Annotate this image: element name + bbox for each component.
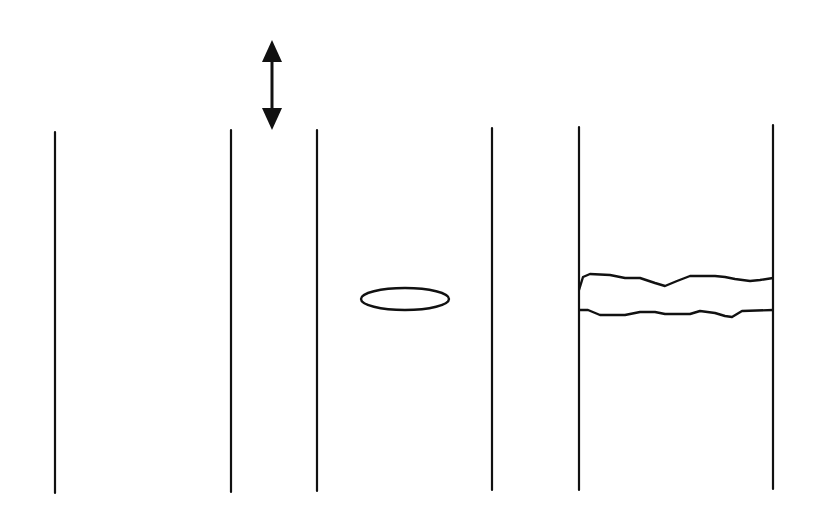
arrow-head-up-icon [262, 40, 282, 62]
arrow-head-down-icon [262, 108, 282, 130]
wavy-band-top-edge [579, 274, 773, 290]
ellipse-shape [361, 288, 449, 310]
double-arrow-icon [262, 40, 282, 130]
features-group [361, 274, 773, 317]
diagram-canvas [0, 0, 820, 512]
wavy-band-bottom-edge [579, 310, 773, 317]
